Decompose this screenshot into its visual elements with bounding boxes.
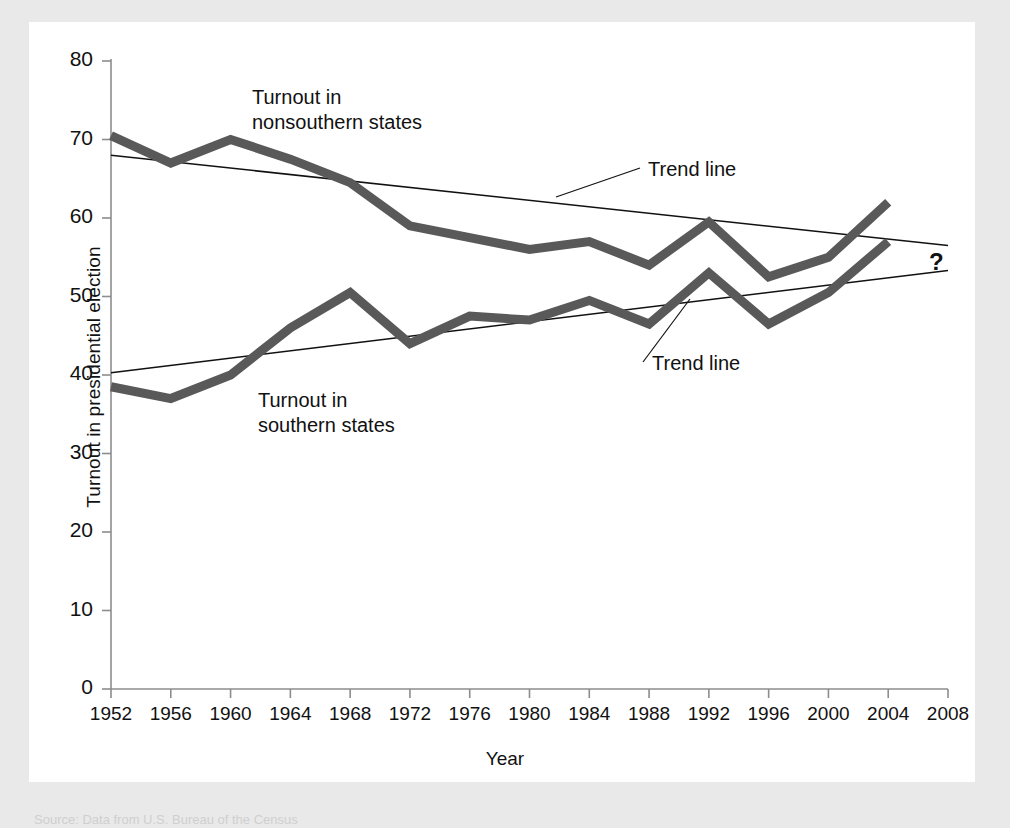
figure-source-caption: Source: Data from U.S. Bureau of the Cen…: [34, 812, 298, 828]
x-tick-label-1972: 1972: [380, 703, 440, 725]
question-mark-annotation: ?: [929, 248, 944, 276]
y-tick-label-20: 20: [47, 518, 93, 542]
x-tick-label-1960: 1960: [201, 703, 261, 725]
x-tick-label-1984: 1984: [559, 703, 619, 725]
x-tick-label-1988: 1988: [619, 703, 679, 725]
y-tick-label-60: 60: [47, 204, 93, 228]
x-tick-label-1956: 1956: [141, 703, 201, 725]
annotation-southern-line2: southern states: [258, 413, 395, 438]
leader-line-0: [556, 168, 640, 197]
annotation-southern-series: Turnout in southern states: [258, 388, 395, 438]
y-tick-label-0: 0: [47, 675, 93, 699]
x-tick-label-2008: 2008: [918, 703, 978, 725]
annotation-trend-line-upper: Trend line: [648, 157, 736, 182]
x-tick-label-1992: 1992: [679, 703, 739, 725]
y-tick-label-70: 70: [47, 126, 93, 150]
x-tick-label-1976: 1976: [440, 703, 500, 725]
annotation-southern-line1: Turnout in: [258, 388, 395, 413]
series-line-1: [111, 242, 888, 399]
x-tick-label-2004: 2004: [858, 703, 918, 725]
annotation-nonsouthern-series: Turnout in nonsouthern states: [252, 85, 422, 135]
x-tick-label-1964: 1964: [260, 703, 320, 725]
y-tick-label-50: 50: [47, 283, 93, 307]
annotation-nonsouthern-line2: nonsouthern states: [252, 110, 422, 135]
chart-figure: Turnout in presidential election Year 01…: [0, 0, 1010, 828]
x-axis-title: Year: [0, 748, 1010, 770]
x-tick-label-1980: 1980: [500, 703, 560, 725]
y-tick-label-80: 80: [47, 47, 93, 71]
x-tick-label-2000: 2000: [798, 703, 858, 725]
y-tick-label-10: 10: [47, 597, 93, 621]
annotation-leader-lines: [556, 168, 690, 362]
annotation-nonsouthern-line1: Turnout in: [252, 85, 422, 110]
x-tick-label-1968: 1968: [320, 703, 380, 725]
y-tick-label-30: 30: [47, 440, 93, 464]
x-tick-label-1996: 1996: [739, 703, 799, 725]
annotation-trend-line-lower: Trend line: [652, 351, 740, 376]
series-line-2: [111, 155, 948, 245]
x-tick-label-1952: 1952: [81, 703, 141, 725]
series-line-0: [111, 136, 888, 277]
y-tick-label-40: 40: [47, 361, 93, 385]
